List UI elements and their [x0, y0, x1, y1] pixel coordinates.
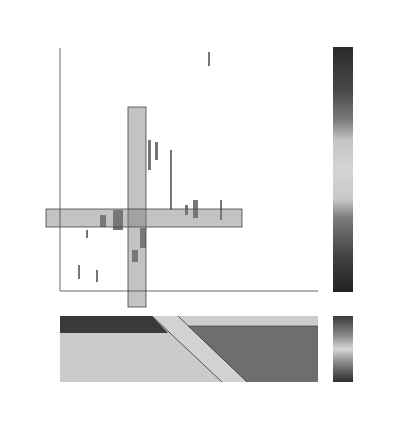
north-top-strip	[178, 316, 318, 326]
time-delay-plot	[46, 47, 353, 307]
figure	[0, 0, 407, 423]
velocity-colorbar	[333, 316, 353, 382]
velocity-model-plot	[60, 316, 353, 382]
tft-vertical-box	[128, 107, 146, 307]
south-upper-layer	[60, 316, 168, 333]
tft-horizontal-box	[46, 209, 242, 227]
anomalies	[78, 52, 222, 282]
time-delay-colorbar	[333, 47, 353, 292]
